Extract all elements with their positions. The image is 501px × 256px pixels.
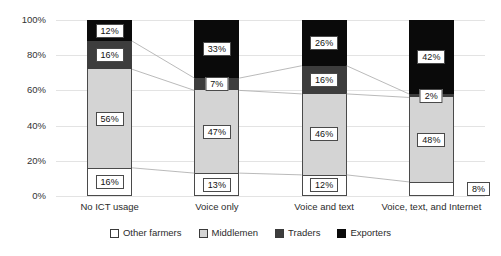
- legend-item-export[interactable]: Exporters: [337, 228, 391, 238]
- data-label: 16%: [96, 175, 124, 189]
- x-axis-label-1: No ICT usage: [80, 201, 138, 212]
- data-label: 56%: [96, 112, 124, 126]
- legend-swatch-icon: [110, 229, 119, 238]
- data-label: 26%: [310, 36, 338, 50]
- y-axis-tick-label: 0%: [0, 191, 46, 201]
- stacked-bar-chart: 0%20%40%60%80%100% 16%56%16%12%13%47%7%3…: [0, 0, 501, 256]
- bar-1[interactable]: [87, 20, 132, 196]
- y-axis-tick-label: 60%: [0, 85, 46, 95]
- gridline: [56, 196, 485, 197]
- plot-area: 16%56%16%12%13%47%7%33%12%46%16%26%8%48%…: [56, 20, 485, 196]
- y-axis-tick-label: 20%: [0, 156, 46, 166]
- x-axis-label-4: Voice, text, and Internet: [381, 201, 481, 212]
- legend-label: Traders: [288, 228, 320, 238]
- legend-label: Middlemen: [212, 228, 258, 238]
- chart-legend: Other farmersMiddlemenTradersExporters: [0, 228, 501, 238]
- data-label: 16%: [96, 48, 124, 62]
- legend-label: Other farmers: [123, 228, 182, 238]
- data-label: 16%: [310, 73, 338, 87]
- y-axis-tick-label: 80%: [0, 50, 46, 60]
- y-axis-tick-label: 40%: [0, 121, 46, 131]
- x-axis-label-2: Voice only: [195, 201, 238, 212]
- data-label: 46%: [310, 127, 338, 141]
- data-label: 47%: [203, 125, 231, 139]
- data-label: 42%: [417, 50, 445, 64]
- data-label: 13%: [203, 178, 231, 192]
- legend-item-middle[interactable]: Middlemen: [199, 228, 258, 238]
- data-label: 48%: [417, 133, 445, 147]
- x-axis-label-3: Voice and text: [294, 201, 354, 212]
- segment-other[interactable]: [409, 182, 454, 196]
- data-label: 7%: [205, 77, 228, 91]
- legend-label: Exporters: [350, 228, 391, 238]
- legend-swatch-icon: [337, 229, 346, 238]
- data-label: 33%: [203, 42, 231, 56]
- legend-swatch-icon: [275, 229, 284, 238]
- data-label: 12%: [96, 24, 124, 38]
- data-label: 2%: [420, 89, 443, 103]
- y-axis-tick-label: 100%: [0, 15, 46, 25]
- legend-swatch-icon: [199, 229, 208, 238]
- bar-4[interactable]: [409, 20, 454, 196]
- legend-item-other[interactable]: Other farmers: [110, 228, 182, 238]
- legend-item-trader[interactable]: Traders: [275, 228, 320, 238]
- data-label: 12%: [310, 178, 338, 192]
- data-label: 8%: [467, 182, 490, 196]
